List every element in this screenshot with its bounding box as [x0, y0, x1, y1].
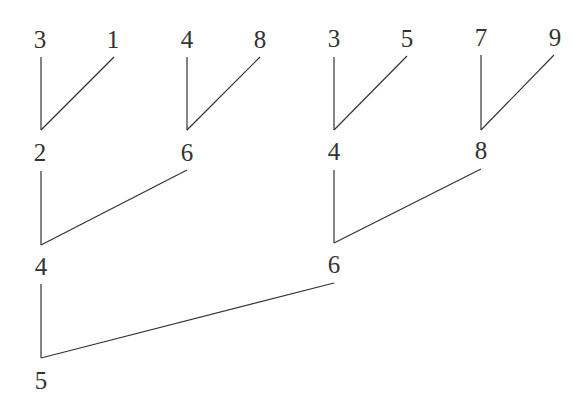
- node-l1-2: 4: [181, 26, 194, 53]
- node-l3-1: 6: [328, 251, 341, 278]
- node-l1-0: 3: [34, 26, 47, 53]
- edge-l3-1-to-l4-0: [41, 283, 334, 358]
- node-l2-3: 8: [475, 137, 488, 164]
- edge-l2-1-to-l3-0: [41, 170, 187, 245]
- node-l1-5: 5: [401, 25, 414, 52]
- node-l4-0-root: 5: [35, 367, 48, 394]
- edge-l1-7-to-l2-3: [481, 55, 554, 130]
- node-l2-1: 6: [181, 139, 194, 166]
- nodes-level-4: 5: [35, 367, 48, 394]
- tree-diagram-svg: 3 1 4 8 3 5 7 9 2 6 4 8 4 6 5: [0, 0, 587, 408]
- node-l2-0: 2: [34, 139, 47, 166]
- node-l1-6: 7: [475, 24, 488, 51]
- edges-level-2: [41, 169, 481, 245]
- node-l1-3: 8: [254, 26, 267, 53]
- edges-level-3: [41, 283, 334, 358]
- nodes-level-1: 3 1 4 8 3 5 7 9: [34, 24, 562, 53]
- node-l2-2: 4: [328, 138, 341, 165]
- edge-l1-5-to-l2-2: [334, 56, 407, 130]
- edge-l2-3-to-l3-1: [334, 169, 481, 243]
- node-l1-1: 1: [107, 26, 120, 53]
- node-l1-7: 9: [549, 24, 562, 51]
- edge-l1-1-to-l2-0: [41, 57, 114, 130]
- node-l3-0: 4: [35, 253, 48, 280]
- node-l1-4: 3: [328, 25, 341, 52]
- tree-diagram: 3 1 4 8 3 5 7 9 2 6 4 8 4 6 5: [0, 0, 587, 408]
- edge-l1-3-to-l2-1: [187, 57, 260, 130]
- nodes-level-2: 2 6 4 8: [34, 137, 488, 166]
- nodes-level-3: 4 6: [35, 251, 341, 280]
- edges-level-1: [41, 55, 554, 130]
